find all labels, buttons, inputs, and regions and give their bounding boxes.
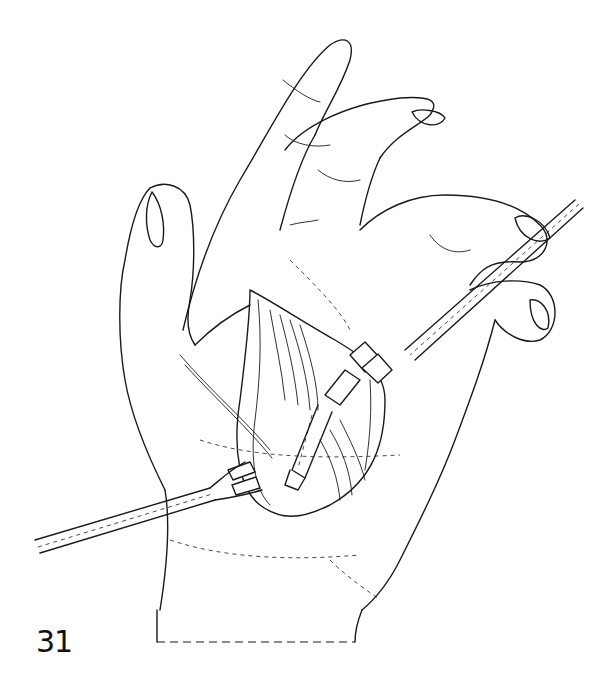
index-finger bbox=[183, 40, 351, 330]
thumb bbox=[120, 184, 195, 490]
middle-finger bbox=[285, 98, 445, 225]
wrist-cutoff-dashed-line bbox=[157, 610, 362, 642]
ring-finger bbox=[360, 195, 550, 285]
figure-number: 31 bbox=[36, 624, 72, 659]
tendon-graft bbox=[180, 355, 360, 490]
retractor-lower bbox=[35, 462, 262, 553]
incision-opening bbox=[237, 290, 385, 516]
hand-palm bbox=[160, 260, 495, 610]
hand-surgery-illustration bbox=[0, 0, 606, 682]
